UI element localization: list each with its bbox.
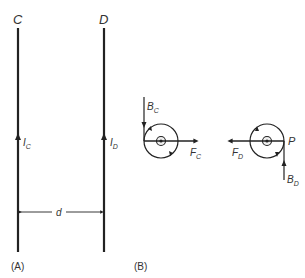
panel-a: C IC D ID d (A) [11,12,118,272]
caption-b: (B) [134,261,147,272]
panel-b-left: BC FC [142,97,203,160]
current-c-arrow-icon [15,133,21,140]
current-d-sub: D [113,143,118,150]
svg-text:IC: IC [23,137,32,150]
current-c-sub: C [26,143,32,150]
panel-b-right: FD P BD [230,124,299,187]
svg-text:FD: FD [232,147,243,160]
separation-label: d [56,207,62,218]
svg-text:ID: ID [110,137,118,150]
caption-a: (A) [11,261,24,272]
wire-d-label: D [99,12,108,27]
svg-text:BC: BC [147,101,160,114]
current-d-arrow-icon [101,133,107,140]
point-p-label: P [288,135,296,147]
field-d-arrow-icon [282,160,287,166]
svg-text:FC: FC [190,147,202,160]
wire-c-label: C [13,12,23,27]
diagram-canvas: C IC D ID d (A) BC FC [0,0,305,278]
field-c-arrow-icon [142,122,147,128]
svg-text:BD: BD [287,174,299,187]
